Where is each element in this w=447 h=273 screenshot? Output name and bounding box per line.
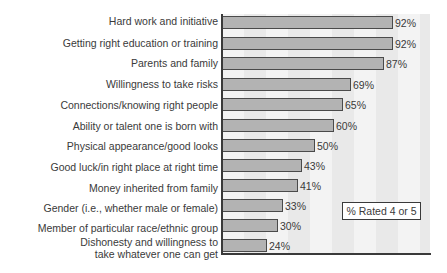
value-label: 92%	[395, 17, 416, 29]
bar	[222, 16, 393, 29]
category-label: Parents and family	[131, 57, 218, 69]
category-label: Ability or talent one is born with	[73, 120, 218, 132]
category-label: Gender (i.e., whether male or female)	[44, 202, 219, 214]
horizontal-bar-chart: Hard work and initiative 92% Getting rig…	[0, 0, 447, 273]
value-label: 92%	[395, 38, 416, 50]
bar	[222, 179, 298, 192]
value-label: 65%	[345, 99, 366, 111]
value-label: 43%	[304, 160, 325, 172]
value-label: 33%	[285, 200, 306, 212]
bar	[222, 219, 278, 232]
bar	[222, 239, 267, 252]
bar	[222, 98, 343, 111]
bar	[222, 139, 315, 152]
legend-box: % Rated 4 or 5	[342, 202, 421, 220]
category-label-line1: Dishonesty and willingness to	[80, 236, 218, 248]
category-label-line2: take whatever one can get	[95, 248, 218, 260]
value-label: 69%	[353, 79, 374, 91]
category-label: Hard work and initiative	[109, 15, 218, 27]
bar	[222, 57, 384, 70]
category-label: Member of particular race/ethnic group	[38, 222, 218, 234]
value-label: 60%	[336, 120, 357, 132]
bar	[222, 159, 302, 172]
category-label: Money inherited from family	[89, 182, 218, 194]
y-axis-line	[221, 14, 223, 255]
category-label: Willingness to take risks	[106, 78, 218, 90]
value-label: 24%	[269, 240, 290, 252]
bar	[222, 78, 351, 91]
x-axis-line	[221, 253, 431, 255]
category-label: Good luck/in right place at right time	[51, 161, 219, 173]
value-label: 87%	[386, 58, 407, 70]
category-label: Connections/knowing right people	[60, 99, 218, 111]
category-label: Physical appearance/good looks	[67, 140, 218, 152]
value-label: 30%	[280, 220, 301, 232]
value-label: 50%	[317, 140, 338, 152]
bar	[222, 37, 393, 50]
bar	[222, 119, 334, 132]
category-label: Getting right education or training	[63, 37, 218, 49]
value-label: 41%	[300, 180, 321, 192]
bar	[222, 199, 283, 212]
